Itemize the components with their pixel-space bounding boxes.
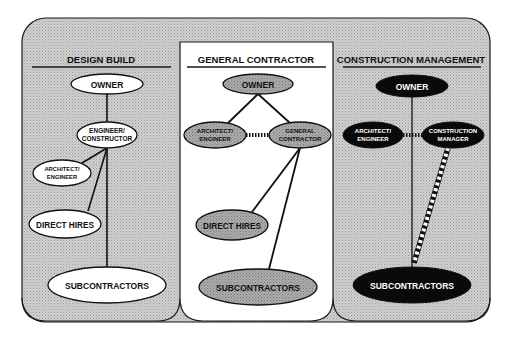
node-subcontractors-label: SUBCONTRACTORS [370, 281, 454, 291]
node-owner-label: OWNER [242, 80, 275, 90]
node-direct-hires-label: DIRECT HIRES [203, 222, 261, 231]
node-architect-engineer-label-1: ARCHITECT/ [44, 166, 79, 172]
node-owner-label: OWNER [396, 82, 429, 92]
delivery-methods-diagram: DESIGN BUILD OWNER ENGINEER/ CONSTRUCTOR… [0, 0, 507, 344]
node-engineer-constructor-label-1: ENGINEER/ [89, 127, 125, 134]
node-subcontractors-label: SUBCONTRACTORS [65, 281, 149, 291]
node-direct-hires-label: DIRECT HIRES [36, 221, 94, 230]
panel-title: GENERAL CONTRACTOR [198, 54, 314, 65]
panel-title: CONSTRUCTION MANAGEMENT [337, 54, 485, 65]
node-general-contractor-label-2: CONTRACTOR [279, 136, 322, 142]
node-subcontractors-label: SUBCONTRACTORS [216, 283, 300, 293]
node-general-contractor-label-1: GENERAL [285, 128, 315, 134]
node-construction-manager-label-1: CONSTRUCTION [429, 128, 477, 134]
node-architect-engineer [343, 122, 403, 148]
node-architect-engineer-label-2: ENGINEER [199, 136, 231, 142]
node-architect-engineer-label-1: ARCHITECT/ [197, 128, 234, 134]
node-owner-label: OWNER [91, 80, 124, 90]
node-construction-manager-label-2: MANAGER [438, 136, 470, 142]
node-architect-engineer-label-2: ENGINEER [47, 174, 78, 180]
panel-title: DESIGN BUILD [67, 54, 135, 65]
node-architect-engineer-label-2: ENGINEER [357, 136, 389, 142]
node-construction-manager [422, 122, 484, 148]
node-general-contractor [269, 122, 331, 148]
node-engineer-constructor-label-2: CONSTRUCTOR [82, 135, 133, 142]
node-architect-engineer [33, 160, 91, 186]
node-architect-engineer-label-1: ARCHITECT/ [355, 128, 392, 134]
node-architect-engineer [184, 122, 246, 148]
